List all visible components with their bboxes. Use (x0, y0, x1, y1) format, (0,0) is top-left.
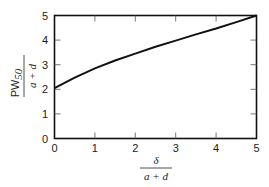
y-tick-label: 3 (42, 59, 48, 71)
y-axis-label: PW50 a + d (9, 55, 38, 97)
chart: 012345012345 PW50 a + d δ a + d (0, 0, 269, 187)
tick-labels: 012345012345 (42, 10, 260, 155)
x-label-numerator: δ (153, 154, 159, 166)
x-tick-label: 5 (253, 142, 259, 154)
x-tick-label: 2 (132, 142, 138, 154)
y-tick-label: 4 (42, 34, 48, 46)
y-tick-label: 2 (42, 83, 48, 95)
y-tick-label: 0 (42, 133, 48, 145)
axis-ticks (55, 16, 257, 139)
x-tick-label: 0 (51, 142, 57, 154)
y-tick-label: 1 (42, 108, 48, 120)
y-label-numerator: PW50 (9, 68, 24, 97)
x-tick-label: 3 (173, 142, 179, 154)
y-tick-label: 5 (42, 10, 48, 22)
x-tick-label: 1 (92, 142, 98, 154)
y-label-denominator: a + d (26, 64, 38, 88)
data-line (55, 16, 257, 89)
x-axis-label: δ a + d (140, 154, 172, 182)
plot-frame (55, 16, 257, 139)
x-tick-label: 4 (213, 142, 219, 154)
x-label-denominator: a + d (144, 170, 168, 182)
